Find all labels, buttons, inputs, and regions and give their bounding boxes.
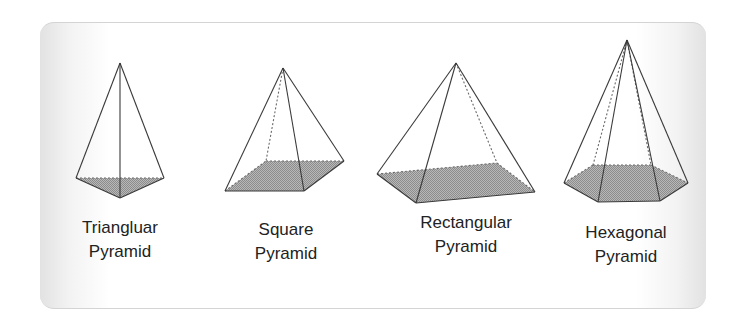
label-line-1: Square	[216, 218, 356, 242]
triangular-pyramid-figure	[76, 63, 164, 198]
label-line-1: Triangluar	[50, 216, 190, 240]
label-line-2: Pyramid	[556, 245, 696, 269]
hexagonal-pyramid-figure	[564, 40, 688, 202]
square-pyramid-figure	[225, 68, 344, 191]
square-pyramid-label: Square Pyramid	[216, 218, 356, 266]
label-line-2: Pyramid	[396, 235, 536, 259]
label-line-2: Pyramid	[50, 240, 190, 264]
pyramids-illustration	[0, 0, 739, 322]
rectangular-pyramid-label: Rectangular Pyramid	[396, 211, 536, 259]
label-line-1: Rectangular	[396, 211, 536, 235]
rectangular-pyramid-figure	[377, 63, 535, 203]
label-line-1: Hexagonal	[556, 221, 696, 245]
label-line-2: Pyramid	[216, 242, 356, 266]
triangular-pyramid-label: Triangluar Pyramid	[50, 216, 190, 264]
hexagonal-pyramid-label: Hexagonal Pyramid	[556, 221, 696, 269]
